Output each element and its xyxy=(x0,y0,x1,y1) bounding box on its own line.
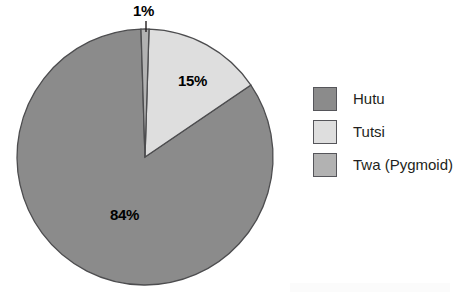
slice-label-twa: 1% xyxy=(133,2,154,19)
legend-label-twa: Twa (Pygmoid) xyxy=(353,157,453,172)
legend-swatch-tutsi xyxy=(313,120,337,144)
legend-swatch-hutu xyxy=(313,87,337,111)
scan-artifact xyxy=(290,283,450,292)
slice-label-hutu: 84% xyxy=(110,206,139,223)
legend-label-tutsi: Tutsi xyxy=(353,124,385,139)
legend-swatch-twa xyxy=(313,153,337,177)
chart-legend: Hutu Tutsi Twa (Pygmoid) xyxy=(313,82,459,181)
legend-item-twa[interactable]: Twa (Pygmoid) xyxy=(313,148,459,181)
legend-item-hutu[interactable]: Hutu xyxy=(313,82,459,115)
legend-item-tutsi[interactable]: Tutsi xyxy=(313,115,459,148)
slice-label-tutsi: 15% xyxy=(178,72,207,89)
legend-label-hutu: Hutu xyxy=(353,91,385,106)
pie-chart-figure: 1% 15% 84% Hutu Tutsi Twa (Pygmoid) xyxy=(0,0,461,296)
